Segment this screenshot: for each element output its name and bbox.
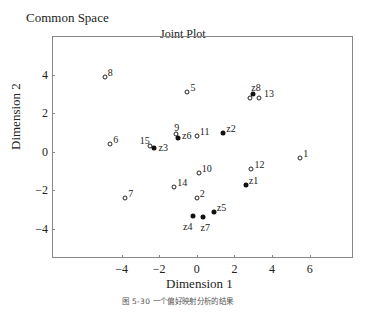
x-tick-label: 6 xyxy=(307,262,313,277)
object-point xyxy=(249,167,254,172)
space-title: Common Space xyxy=(26,10,109,26)
y-tick-mark xyxy=(52,75,55,76)
y-tick-label: −4 xyxy=(30,222,48,237)
x-tick-label: 4 xyxy=(269,262,275,277)
x-tick-mark xyxy=(234,255,235,258)
y-tick-label: 0 xyxy=(30,144,48,159)
point-label: 12 xyxy=(254,160,264,170)
object-point xyxy=(196,171,201,176)
y-tick-label: 4 xyxy=(30,67,48,82)
x-tick-label: 0 xyxy=(194,262,200,277)
object-point xyxy=(123,196,128,201)
x-tick-label: −4 xyxy=(115,262,128,277)
point-label: 9 xyxy=(174,123,179,133)
object-point xyxy=(298,155,303,160)
y-tick-mark xyxy=(52,190,55,191)
x-tick-mark xyxy=(310,255,311,258)
subject-point xyxy=(221,130,226,135)
point-label: z6 xyxy=(182,131,191,141)
point-label: 14 xyxy=(177,178,187,188)
point-label: 7 xyxy=(128,189,133,199)
object-point xyxy=(256,95,261,100)
object-point xyxy=(194,196,199,201)
x-tick-label: −2 xyxy=(153,262,166,277)
subject-point xyxy=(243,182,248,187)
object-point xyxy=(185,89,190,94)
point-label: z1 xyxy=(249,176,258,186)
point-label: 11 xyxy=(200,127,210,137)
point-label: z5 xyxy=(217,203,226,213)
y-axis-label: Dimension 2 xyxy=(8,83,24,150)
point-label: 6 xyxy=(113,135,118,145)
subject-point xyxy=(211,209,216,214)
point-label: z7 xyxy=(201,223,210,233)
point-label: 15 xyxy=(140,136,150,146)
point-label: 10 xyxy=(202,164,212,174)
subject-point xyxy=(151,145,156,150)
point-label: 13 xyxy=(264,89,274,99)
y-tick-mark xyxy=(52,152,55,153)
object-point xyxy=(172,184,177,189)
x-tick-mark xyxy=(159,255,160,258)
point-label: 8 xyxy=(108,68,113,78)
point-label: 2 xyxy=(200,189,205,199)
y-tick-mark xyxy=(52,229,55,230)
subject-point xyxy=(176,136,181,141)
x-tick-mark xyxy=(197,255,198,258)
subject-point xyxy=(200,215,205,220)
x-tick-mark xyxy=(272,255,273,258)
x-tick-label: 2 xyxy=(231,262,237,277)
x-axis-label: Dimension 1 xyxy=(166,276,233,292)
object-point xyxy=(108,142,113,147)
point-label: z4 xyxy=(183,222,192,232)
point-label: z2 xyxy=(226,124,235,134)
point-label: 5 xyxy=(190,83,195,93)
figure-caption: 图 5-30 一个偏好映射分析的结果 xyxy=(122,295,233,306)
point-label: 1 xyxy=(303,149,308,159)
point-label: z8 xyxy=(251,83,260,93)
point-label: z3 xyxy=(159,143,168,153)
object-point xyxy=(102,74,107,79)
x-tick-mark xyxy=(122,255,123,258)
y-tick-label: −2 xyxy=(30,183,48,198)
y-tick-label: 2 xyxy=(30,106,48,121)
subject-point xyxy=(191,213,196,218)
object-point xyxy=(194,134,199,139)
y-tick-mark xyxy=(52,113,55,114)
